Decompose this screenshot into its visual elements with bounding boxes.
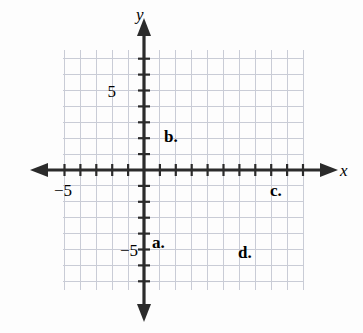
graph-figure: x y −5 5 −5 a. b. c. d. xyxy=(0,0,363,333)
y-tick-label-neg5: −5 xyxy=(120,241,138,260)
axes xyxy=(30,18,338,322)
curve-label-a: a. xyxy=(152,233,165,252)
curve-label-b: b. xyxy=(164,127,178,146)
x-tick-label-neg5: −5 xyxy=(54,181,72,200)
coordinate-plane-plot: x y −5 5 −5 a. b. c. d. xyxy=(0,0,363,333)
y-tick-label-5: 5 xyxy=(108,82,117,101)
x-axis-label: x xyxy=(339,161,348,180)
curve-label-c: c. xyxy=(270,181,282,200)
curve-label-d: d. xyxy=(238,243,252,262)
y-axis-label: y xyxy=(134,5,144,24)
